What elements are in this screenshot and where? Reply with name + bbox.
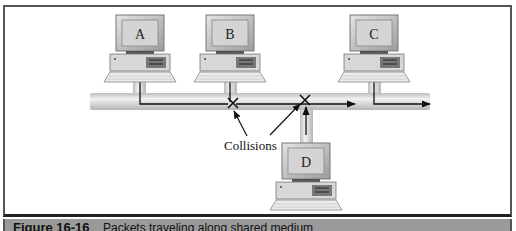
figure-caption: Packets traveling along shared medium — [103, 221, 313, 231]
annotation-arrow-1 — [234, 111, 247, 136]
computer-d: D — [270, 143, 342, 210]
computer-a-label: A — [135, 27, 146, 42]
computer-c-label: C — [369, 27, 378, 42]
computer-d-label: D — [301, 155, 311, 170]
shared-medium-cable — [90, 93, 430, 110]
collisions-label: Collisions — [224, 138, 277, 153]
computer-a: A — [104, 15, 176, 82]
network-diagram: Collisions A B C D — [0, 0, 516, 219]
caption-band: Figure 16-16 Packets traveling along sha… — [3, 219, 512, 231]
computer-b: B — [194, 15, 266, 82]
computer-b-label: B — [225, 27, 234, 42]
figure-number: Figure 16-16 — [13, 220, 90, 231]
computer-c: C — [338, 15, 410, 82]
